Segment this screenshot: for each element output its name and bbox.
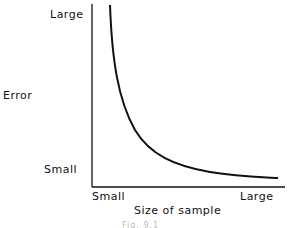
- y-tick-large: Large: [50, 8, 83, 21]
- x-tick-large: Large: [240, 190, 273, 203]
- error-curve: [110, 5, 278, 178]
- y-tick-small: Small: [44, 163, 77, 176]
- x-tick-small: Small: [92, 190, 125, 203]
- x-axis-label: Size of sample: [134, 204, 221, 217]
- figure-caption: Fig. 9.1: [122, 221, 159, 228]
- y-axis-label: Error: [3, 89, 32, 102]
